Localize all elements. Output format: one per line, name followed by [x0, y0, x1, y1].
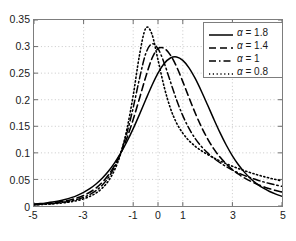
legend: α = 1.8α = 1.4α = 1α = 0.8: [203, 22, 283, 78]
legend-item: α = 1.8: [204, 26, 282, 39]
x-tick-label: 0: [155, 210, 161, 220]
y-tick-label: 0.2: [0, 95, 30, 105]
legend-label: α = 1.4: [237, 41, 268, 51]
legend-item: α = 0.8: [204, 65, 282, 78]
stable-density-figure: 00.050.10.150.20.250.30.35 -5-3-10135 α …: [0, 0, 296, 241]
y-tick-label: 0: [0, 202, 30, 212]
legend-line-sample: [208, 66, 234, 78]
x-tick-label: -3: [78, 210, 87, 220]
legend-line-sample: [208, 53, 234, 65]
legend-label: α = 1.8: [237, 28, 268, 38]
curve-alpha-1-8: [34, 57, 282, 204]
y-tick-label: 0.15: [0, 121, 30, 131]
x-tick-label: -5: [28, 210, 37, 220]
x-tick-label: 5: [280, 210, 286, 220]
legend-label: α = 0.8: [237, 67, 268, 77]
y-tick-label: 0.25: [0, 68, 30, 78]
legend-label: α = 1: [237, 54, 260, 64]
x-tick-label: -1: [128, 210, 137, 220]
y-tick-label: 0.05: [0, 175, 30, 185]
y-tick-label: 0.35: [0, 14, 30, 24]
legend-line-sample: [208, 27, 234, 39]
y-tick-label: 0.3: [0, 41, 30, 51]
legend-item: α = 1: [204, 52, 282, 65]
x-tick-label: 3: [230, 210, 236, 220]
legend-line-sample: [208, 40, 234, 52]
x-tick-label: 1: [180, 210, 186, 220]
legend-item: α = 1.4: [204, 39, 282, 52]
y-tick-label: 0.1: [0, 148, 30, 158]
